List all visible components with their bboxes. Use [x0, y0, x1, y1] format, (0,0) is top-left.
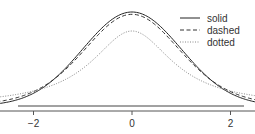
- legend-label-dashed: dashed: [207, 25, 240, 36]
- x-tick-label: 0: [129, 118, 135, 129]
- x-tick-label: −2: [28, 118, 40, 129]
- x-axis: −4−2024: [0, 111, 255, 129]
- density-chart: −4−2024 soliddasheddotted: [0, 0, 255, 134]
- legend-label-solid: solid: [207, 13, 228, 24]
- legend-label-dotted: dotted: [207, 37, 235, 48]
- x-tick-label: 2: [228, 118, 234, 129]
- legend: soliddasheddotted: [180, 13, 240, 48]
